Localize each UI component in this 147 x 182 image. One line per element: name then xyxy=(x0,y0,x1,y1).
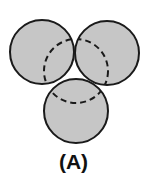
figure-label: (A) xyxy=(0,150,147,174)
circle-bottom xyxy=(44,79,108,143)
circle-top-left xyxy=(10,20,74,84)
